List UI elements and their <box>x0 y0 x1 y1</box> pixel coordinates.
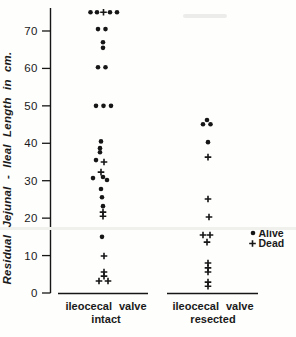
point-dead <box>205 196 212 203</box>
point-dead <box>100 213 107 220</box>
point-alive <box>94 104 99 109</box>
point-alive <box>88 10 93 15</box>
point-dead <box>101 253 108 260</box>
point-alive <box>98 146 103 151</box>
point-dead <box>101 273 108 280</box>
point-alive <box>99 139 104 144</box>
point-alive <box>101 40 106 45</box>
point-alive <box>101 46 106 51</box>
point-alive <box>201 122 206 127</box>
y-tick-label: 60 <box>24 62 38 74</box>
point-dead <box>204 239 211 246</box>
y-tick-label: 40 <box>24 137 38 149</box>
y-tick-label: 10 <box>24 250 38 262</box>
point-alive <box>109 104 114 109</box>
point-alive <box>101 175 106 180</box>
point-alive <box>95 10 100 15</box>
y-tick-label: 30 <box>24 175 38 187</box>
point-dead <box>100 9 107 16</box>
point-alive <box>206 140 211 145</box>
point-alive <box>115 10 120 15</box>
group-label-intact-line1: ileocecal valve <box>65 300 146 312</box>
y-tick-label: 0 <box>31 287 38 299</box>
point-alive <box>91 176 96 181</box>
y-tick-label: 70 <box>24 25 38 37</box>
y-tick-label: 20 <box>24 212 38 224</box>
group-label-resected-line1: ileocecal valve <box>172 300 253 312</box>
point-alive <box>96 27 101 32</box>
point-dead <box>96 278 103 285</box>
point-alive <box>105 178 110 183</box>
point-dead <box>207 232 214 239</box>
point-dead <box>98 169 105 176</box>
point-alive <box>99 187 104 192</box>
point-alive <box>103 65 108 70</box>
group-label-intact-line2: intact <box>91 313 121 325</box>
point-alive <box>100 195 105 200</box>
point-dead <box>205 269 212 276</box>
figure-scatter-plot: Residual Jejunal - Ileal Length in cm. 0… <box>0 0 296 337</box>
point-alive <box>205 118 210 123</box>
point-dead <box>101 159 108 166</box>
legend-label-dead: Dead <box>259 237 285 249</box>
point-alive <box>98 150 103 155</box>
point-alive <box>96 65 101 70</box>
point-alive <box>108 10 113 15</box>
point-dead <box>200 232 207 239</box>
point-alive <box>208 122 213 127</box>
point-alive <box>101 104 106 109</box>
y-tick-label: 50 <box>24 100 38 112</box>
point-alive <box>94 158 99 163</box>
point-alive <box>103 27 108 32</box>
legend-alive-dot-icon <box>251 231 256 236</box>
point-dead <box>205 283 212 290</box>
point-dead <box>206 214 213 221</box>
point-dead <box>105 278 112 285</box>
point-alive <box>101 204 106 209</box>
group-label-resected-line2: resected <box>190 313 235 325</box>
y-axis-title: Residual Jejunal - Ileal Length in cm. <box>1 18 17 318</box>
legend-dead-plus-icon <box>249 240 256 247</box>
scatter-plot-canvas: 010203040506070ileocecal valveintactileo… <box>0 0 296 337</box>
point-dead <box>205 154 212 161</box>
point-alive <box>100 235 105 240</box>
